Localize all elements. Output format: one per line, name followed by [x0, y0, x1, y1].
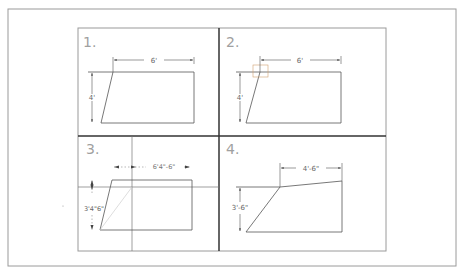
- top-dimension-label: 6'4"-6": [153, 163, 176, 171]
- panel-number: 1.: [83, 34, 96, 50]
- top-dimension-label: 6': [151, 57, 157, 65]
- top-dimension-label: 6': [297, 57, 303, 65]
- top-dimension-label: 4'-6": [303, 165, 320, 173]
- grid-frame: [78, 28, 386, 251]
- panel-2: 2. 6' 4': [226, 34, 341, 123]
- side-dimension-label: 3'4"6": [84, 205, 104, 213]
- side-dimension-label: 3'-6": [232, 204, 249, 212]
- drawing-sheet: 1. 6' 4' 2. 6' 4' 3.: [0, 0, 465, 275]
- side-dimension-label: 4': [237, 94, 243, 102]
- side-dimension-label: 4': [89, 94, 95, 102]
- panel-number: 4.: [226, 141, 239, 157]
- panel-number: 3.: [86, 141, 99, 157]
- panel-3: 3. 6'4"-6" 3'4"6": [78, 136, 219, 251]
- panel-1: 1. 6' 4': [83, 34, 194, 123]
- stray-mark: [62, 205, 63, 206]
- panel-4: 4. 4'-6" 3'-6": [226, 141, 342, 232]
- corner-highlight-box: [253, 65, 268, 77]
- drawing-canvas: 1. 6' 4' 2. 6' 4' 3.: [0, 0, 465, 275]
- panel-number: 2.: [226, 34, 239, 50]
